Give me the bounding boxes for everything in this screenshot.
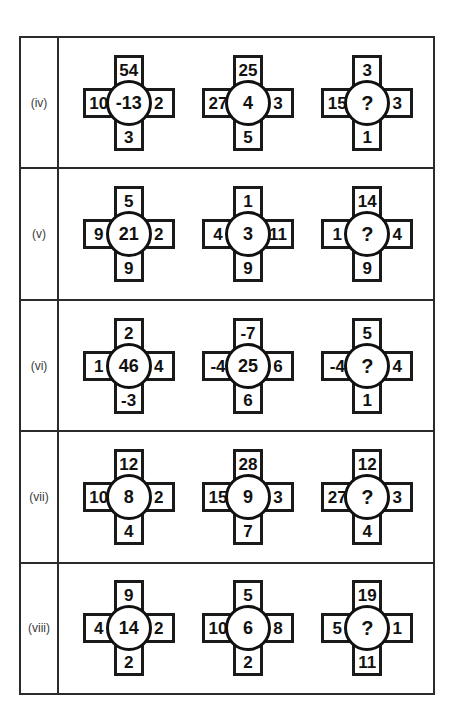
cross-centre-unknown: ? (361, 618, 373, 638)
cross-value-bottom: 5 (228, 129, 268, 146)
row-label-cell: (vii) (21, 432, 59, 561)
cross-figure: 2871539 (202, 449, 294, 545)
cross-value-top: 12 (347, 456, 387, 473)
row-label: (v) (32, 227, 46, 241)
cross-figure: 924214 (83, 580, 175, 676)
row-label: (vii) (29, 490, 48, 504)
row-label: (iv) (31, 96, 48, 110)
cross-figure: 1241028 (83, 449, 175, 545)
cross-centre-unknown: ? (361, 356, 373, 376)
row-figures-cell: 543102-13255273431153? (59, 38, 433, 167)
cross-centre-unknown: ? (361, 487, 373, 507)
cross-value-bottom: 1 (347, 129, 387, 146)
cross-centre-value: 25 (238, 357, 258, 375)
cross-centre-circle: ? (344, 211, 390, 257)
row-figures-cell: 59922119411314914? (59, 169, 433, 298)
cross-value-top: 14 (347, 193, 387, 210)
cross-value-top: -7 (228, 325, 268, 342)
row-label-cell: (viii) (21, 564, 59, 693)
cross-figure: -76-4625 (202, 318, 294, 414)
row-label-cell: (iv) (21, 38, 59, 167)
row-label: (vi) (31, 359, 48, 373)
cross-centre-circle: 9 (225, 474, 271, 520)
cross-value-bottom: 2 (109, 654, 149, 671)
cross-value-top: 5 (228, 587, 268, 604)
cross-figure: 521086 (202, 580, 294, 676)
cross-centre-circle: 25 (225, 343, 271, 389)
cross-figure: 543102-13 (83, 55, 175, 151)
cross-figure: 194113 (202, 186, 294, 282)
table-row: (vi)2-31446-76-462551-44? (21, 301, 433, 432)
cross-centre-value: 8 (124, 488, 134, 506)
cross-value-bottom: 7 (228, 523, 268, 540)
cross-value-top: 28 (228, 456, 268, 473)
cross-centre-circle: ? (344, 343, 390, 389)
cross-centre-value: -13 (116, 94, 142, 112)
cross-value-top: 5 (347, 325, 387, 342)
cross-centre-value: 3 (243, 225, 253, 243)
cross-value-top: 25 (228, 62, 268, 79)
cross-value-top: 3 (347, 62, 387, 79)
cross-figure: 51-44? (321, 318, 413, 414)
cross-centre-value: 46 (119, 357, 139, 375)
cross-centre-circle: 21 (106, 211, 152, 257)
cross-value-bottom: 3 (109, 129, 149, 146)
cross-figure: 124273? (321, 449, 413, 545)
cross-value-bottom: -3 (109, 392, 149, 409)
cross-value-top: 12 (109, 456, 149, 473)
cross-centre-circle: ? (344, 80, 390, 126)
cross-centre-circle: 4 (225, 80, 271, 126)
cross-value-bottom: 11 (347, 654, 387, 671)
cross-centre-circle: -13 (106, 80, 152, 126)
cross-figure: 2-31446 (83, 318, 175, 414)
cross-value-top: 9 (109, 587, 149, 604)
cross-centre-value: 4 (243, 94, 253, 112)
puzzle-table: (iv)543102-13255273431153?(v)59922119411… (19, 36, 435, 695)
cross-value-bottom: 9 (228, 260, 268, 277)
cross-centre-circle: 8 (106, 474, 152, 520)
cross-centre-unknown: ? (361, 224, 373, 244)
cross-figure: 14914? (321, 186, 413, 282)
cross-centre-unknown: ? (361, 93, 373, 113)
table-row: (viii)924214521086191151? (21, 564, 433, 693)
cross-value-bottom: 9 (347, 260, 387, 277)
table-row: (v)59922119411314914? (21, 169, 433, 300)
table-row: (iv)543102-13255273431153? (21, 38, 433, 169)
table-row: (vii)12410282871539124273? (21, 432, 433, 563)
row-label-cell: (v) (21, 169, 59, 298)
cross-centre-value: 14 (119, 619, 139, 637)
row-label: (viii) (28, 621, 50, 635)
cross-figure: 31153? (321, 55, 413, 151)
cross-value-bottom: 1 (347, 392, 387, 409)
row-figures-cell: 2-31446-76-462551-44? (59, 301, 433, 430)
cross-centre-circle: 6 (225, 605, 271, 651)
cross-centre-circle: ? (344, 474, 390, 520)
cross-value-bottom: 4 (109, 523, 149, 540)
cross-centre-circle: 46 (106, 343, 152, 389)
cross-value-bottom: 6 (228, 392, 268, 409)
row-figures-cell: 924214521086191151? (59, 564, 433, 693)
cross-centre-value: 6 (243, 619, 253, 637)
cross-figure: 191151? (321, 580, 413, 676)
cross-value-top: 54 (109, 62, 149, 79)
cross-value-top: 19 (347, 587, 387, 604)
row-figures-cell: 12410282871539124273? (59, 432, 433, 561)
cross-value-top: 1 (228, 193, 268, 210)
cross-value-top: 2 (109, 325, 149, 342)
cross-value-bottom: 4 (347, 523, 387, 540)
cross-figure: 2552734 (202, 55, 294, 151)
row-label-cell: (vi) (21, 301, 59, 430)
cross-centre-value: 21 (119, 225, 139, 243)
cross-value-bottom: 9 (109, 260, 149, 277)
cross-centre-circle: ? (344, 605, 390, 651)
cross-figure: 599221 (83, 186, 175, 282)
cross-value-top: 5 (109, 193, 149, 210)
cross-centre-circle: 14 (106, 605, 152, 651)
cross-centre-circle: 3 (225, 211, 271, 257)
cross-value-bottom: 2 (228, 654, 268, 671)
cross-centre-value: 9 (243, 488, 253, 506)
